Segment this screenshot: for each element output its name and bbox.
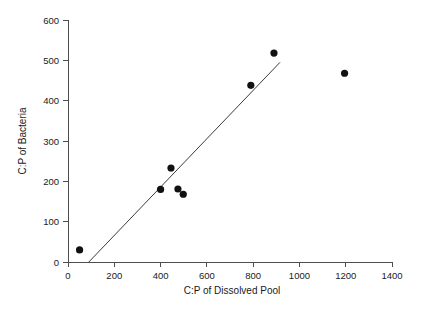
chart-background bbox=[0, 0, 424, 313]
scatter-chart-figure: 0100200300400500600 02004006008001000120… bbox=[0, 0, 424, 313]
y-tick-label: 600 bbox=[43, 15, 59, 26]
y-tick-label: 100 bbox=[43, 216, 59, 227]
x-tick-label: 1000 bbox=[289, 270, 310, 281]
y-tick-label: 400 bbox=[43, 95, 59, 106]
data-point-marker bbox=[247, 82, 254, 89]
y-tick-label: 0 bbox=[54, 257, 59, 268]
x-tick-label: 1200 bbox=[335, 270, 356, 281]
x-tick-label: 400 bbox=[153, 270, 169, 281]
x-tick-label: 200 bbox=[106, 270, 122, 281]
data-point-marker bbox=[76, 246, 83, 253]
x-tick-label: 1400 bbox=[381, 270, 402, 281]
data-point-marker bbox=[157, 186, 164, 193]
y-axis-title: C:P of Bacteria bbox=[17, 107, 28, 175]
data-point-marker bbox=[180, 191, 187, 198]
x-tick-label: 800 bbox=[245, 270, 261, 281]
data-point-marker bbox=[270, 49, 277, 56]
data-point-marker bbox=[341, 70, 348, 77]
y-tick-label: 200 bbox=[43, 176, 59, 187]
y-tick-label: 300 bbox=[43, 136, 59, 147]
data-point-marker bbox=[174, 185, 181, 192]
x-tick-label: 600 bbox=[199, 270, 215, 281]
data-point-marker bbox=[167, 164, 174, 171]
y-tick-label: 500 bbox=[43, 55, 59, 66]
x-axis-title: C:P of Dissolved Pool bbox=[184, 285, 281, 296]
x-tick-label: 0 bbox=[65, 270, 70, 281]
chart-canvas: 0100200300400500600 02004006008001000120… bbox=[0, 0, 424, 313]
